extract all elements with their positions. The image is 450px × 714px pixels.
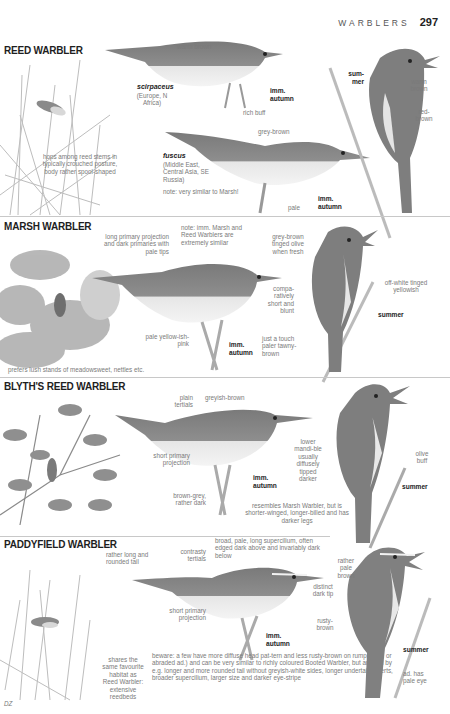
label-summer: sum-mer	[342, 70, 364, 85]
label-imm-autumn: imm. autumn	[270, 87, 302, 102]
label-scirpaceus: scirpaceus	[137, 83, 174, 90]
section-title: BLYTH'S REED WARBLER	[4, 381, 125, 392]
label-primary-projection: long primary projection and dark primari…	[95, 233, 169, 255]
label-pale: pale	[288, 204, 300, 211]
section-title: PADDYFIELD WARBLER	[4, 539, 117, 550]
label-rusty-brown: rusty-brown	[312, 617, 338, 632]
label-bill-short: compa-ratively short and blunt	[262, 285, 294, 315]
label-rich-buff: rich buff	[243, 109, 265, 116]
label-summer: summer	[402, 483, 428, 491]
deciduous-habitat-illustration	[0, 395, 130, 530]
label-fuscus-range: (Middle East, Central Asia, SE Russia)	[163, 161, 211, 183]
label-olive-buff: olive buff	[410, 450, 434, 465]
blyths-reed-warbler-summer-illustration	[330, 378, 410, 548]
label-warm-brown-back: warm brown	[177, 43, 211, 50]
label-imm-autumn: imm. autumn	[253, 474, 285, 489]
label-scirpaceus-range: (Europe, N Africa)	[132, 92, 172, 107]
section-divider	[0, 216, 450, 217]
label-supercilium: broad, pale, long supercilium, often edg…	[215, 537, 325, 559]
label-summer: summer	[403, 646, 429, 654]
artist-initials: DZ	[4, 700, 12, 707]
label-tawny: just a touch paler tawny-brown	[262, 335, 304, 357]
label-summer: summer	[378, 311, 404, 319]
label-imm-autumn-fuscus: imm. autumn	[318, 195, 350, 210]
label-imm-autumn: imm. autumn	[229, 341, 261, 356]
page-number: 297	[420, 16, 438, 28]
label-greyish-brown: greyish-brown	[205, 394, 245, 401]
habitat-note: shares the same favourite habitat as Ree…	[102, 656, 144, 700]
label-short-primary: short primary projection	[140, 452, 190, 467]
label-legs: brown-grey, rather dark	[166, 492, 206, 507]
label-lower-mandible: lower mandi-ble usually diffusely tipped…	[292, 438, 324, 482]
label-pale-eye: ad. has pale eye	[403, 670, 433, 685]
habitat-note: hops among reed stems in typically crouc…	[40, 153, 120, 175]
reedbed-habitat-illustration	[0, 55, 120, 215]
label-pale-brown: rather pale brown	[334, 557, 358, 579]
page-header: WARBLERS 297	[338, 16, 438, 28]
label-imm-autumn: imm. autumn	[266, 632, 298, 647]
section-title: MARSH WARBLER	[4, 221, 91, 232]
running-title: WARBLERS	[338, 18, 409, 28]
label-fuscus: fuscus	[163, 152, 186, 159]
label-off-white: off-white tinged yellowish	[378, 279, 434, 294]
label-warm-brown: warm brown	[405, 78, 433, 93]
marsh-warbler-summer-illustration	[303, 222, 383, 382]
label-red-brown: red-brown	[412, 108, 436, 123]
reed-warbler-summer-illustration	[350, 38, 430, 218]
reedbed-habitat-illustration	[0, 560, 110, 700]
label-legs: pale yellow-ish-pink	[143, 333, 189, 348]
label-note: note: imm. Marsh and Reed Warblers are e…	[181, 224, 247, 246]
label-note: note: very similar to Marsh!	[163, 188, 239, 195]
label-grey-brown: grey-brown	[258, 128, 290, 135]
label-short-primary: short primary projection	[158, 607, 206, 622]
